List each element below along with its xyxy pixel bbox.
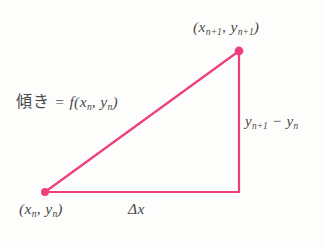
label-delta-y-sub2: n	[294, 121, 299, 131]
label-bottom-vertex-text: (x	[19, 200, 32, 217]
label-bottom-vertex-mid: , y	[37, 200, 53, 217]
label-top-vertex-text: (x	[193, 18, 206, 35]
euler-step-diagram: (xn+1, yn+1) (xn, yn) 傾き = f(xn, yn) yn+…	[0, 0, 324, 247]
label-delta-y-sub1: n+1	[252, 121, 268, 131]
label-top-vertex: (xn+1, yn+1)	[193, 18, 259, 36]
label-slope-end: )	[112, 93, 118, 110]
bottom-left-vertex-dot	[41, 188, 49, 196]
label-bottom-vertex-sub-y: n	[52, 208, 57, 219]
label-top-vertex-sub-x: n+1	[206, 26, 222, 37]
label-delta-x: Δx	[128, 200, 145, 218]
label-top-vertex-sub-y: n+1	[238, 26, 254, 37]
top-right-vertex-dot	[235, 47, 244, 56]
label-bottom-vertex-end: )	[57, 200, 63, 217]
label-slope-sub-y: n	[108, 101, 113, 112]
label-bottom-vertex-sub-x: n	[32, 208, 37, 219]
label-delta-y: yn+1 − yn	[245, 113, 298, 130]
label-slope-japanese: 傾き	[16, 92, 50, 111]
label-top-vertex-end: )	[254, 18, 260, 35]
label-slope-equation: 傾き = f(xn, yn)	[16, 88, 118, 112]
label-slope-function: = f(x	[50, 93, 87, 110]
hypotenuse-line	[45, 51, 239, 192]
label-bottom-vertex: (xn, yn)	[19, 200, 63, 218]
label-top-vertex-mid: , y	[222, 18, 238, 35]
label-slope-mid: , y	[92, 93, 108, 110]
label-delta-y-minus: − y	[268, 113, 294, 129]
label-slope-sub-x: n	[87, 101, 92, 112]
label-delta-y-start: y	[245, 113, 252, 129]
